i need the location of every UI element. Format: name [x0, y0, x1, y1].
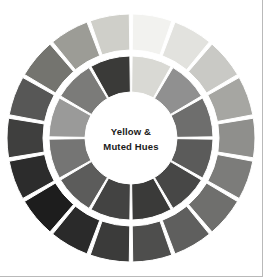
color-wheel-chart: Yellow & Muted Hues	[0, 0, 263, 277]
figure-canvas: Yellow & Muted Hues	[0, 0, 263, 277]
center-disc	[87, 94, 175, 182]
center-label-line-2: Muted Hues	[103, 141, 158, 152]
outer-segment-o5[interactable]	[218, 118, 255, 158]
center-label-line-1: Yellow &	[111, 126, 151, 137]
right-edge-rule	[262, 0, 263, 277]
color-wheel-container: Yellow & Muted Hues	[0, 0, 263, 277]
outer-segment-o14[interactable]	[7, 118, 44, 158]
